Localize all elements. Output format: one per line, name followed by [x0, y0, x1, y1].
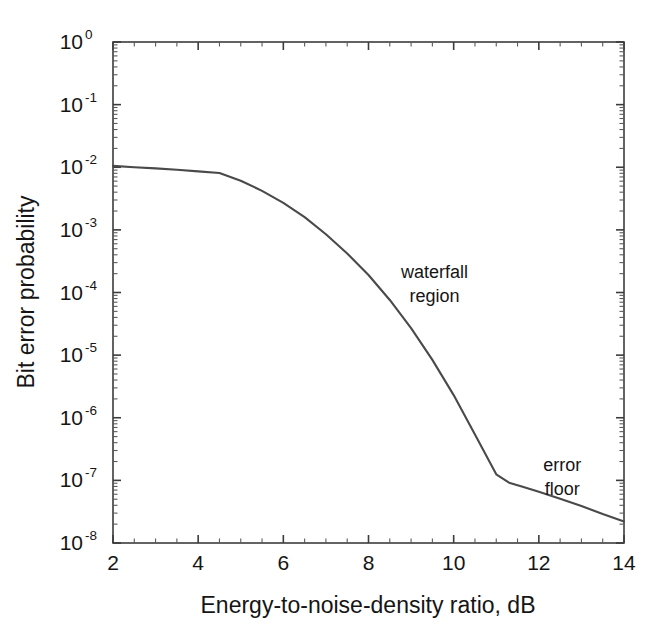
y-tick-exponent: -4 [85, 278, 97, 293]
y-tick-exponent: 0 [85, 27, 93, 42]
y-tick-exponent: -1 [85, 90, 97, 105]
y-tick-label: 10-5 [60, 340, 97, 366]
y-tick-mantissa: 10 [60, 93, 83, 116]
annotation-error-floor: error [543, 455, 581, 475]
y-tick-exponent: -6 [85, 403, 97, 418]
y-tick-mantissa: 10 [60, 281, 83, 304]
y-tick-label: 10-4 [60, 278, 98, 304]
x-tick-label: 2 [107, 551, 119, 574]
x-axis-tick-labels: 2468101214 [107, 551, 636, 574]
y-axis-title: Bit error probability [13, 195, 39, 389]
y-tick-mantissa: 10 [60, 343, 83, 366]
y-tick-mantissa: 10 [60, 406, 83, 429]
y-tick-exponent: -8 [85, 528, 97, 543]
x-tick-label: 6 [277, 551, 289, 574]
y-tick-label: 10-3 [60, 215, 97, 241]
y-tick-label: 10-8 [60, 528, 97, 554]
y-tick-exponent: -3 [85, 215, 97, 230]
y-tick-mantissa: 10 [60, 218, 83, 241]
y-tick-mantissa: 10 [60, 30, 83, 53]
x-tick-label: 14 [612, 551, 636, 574]
x-tick-label: 12 [527, 551, 550, 574]
annotation-waterfall: waterfall [400, 262, 468, 282]
ber-waterfall-figure: 10010-110-210-310-410-510-610-710-8 2468… [0, 0, 665, 630]
annotation-waterfall: region [409, 286, 459, 306]
y-tick-label: 100 [60, 27, 93, 53]
x-axis-title: Energy-to-noise-density ratio, dB [201, 592, 536, 618]
y-tick-mantissa: 10 [60, 468, 83, 491]
y-tick-label: 10-1 [60, 90, 97, 116]
y-tick-mantissa: 10 [60, 531, 83, 554]
x-tick-label: 4 [192, 551, 204, 574]
y-tick-exponent: -5 [85, 340, 97, 355]
y-tick-mantissa: 10 [60, 155, 83, 178]
x-tick-label: 8 [363, 551, 375, 574]
y-tick-exponent: -2 [85, 152, 97, 167]
chart-canvas: 10010-110-210-310-410-510-610-710-8 2468… [0, 0, 665, 630]
x-tick-label: 10 [442, 551, 465, 574]
y-tick-label: 10-7 [60, 465, 97, 491]
y-tick-label: 10-2 [60, 152, 97, 178]
annotation-error-floor: floor [545, 479, 580, 499]
y-tick-exponent: -7 [85, 465, 97, 480]
y-axis-tick-labels: 10010-110-210-310-410-510-610-710-8 [60, 27, 98, 554]
y-tick-label: 10-6 [60, 403, 97, 429]
